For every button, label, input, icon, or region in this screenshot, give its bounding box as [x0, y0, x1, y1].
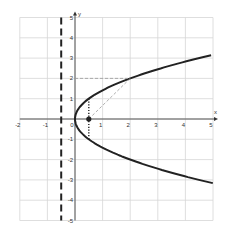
x-tick-label: -2 — [15, 122, 21, 128]
y-tick-label: -5 — [68, 218, 74, 224]
x-tick-label: 0 — [70, 122, 74, 128]
x-tick-label: -1 — [43, 122, 49, 128]
x-axis-label: x — [214, 109, 217, 115]
y-tick-label: -3 — [68, 177, 74, 183]
focus-point — [86, 116, 91, 121]
x-axis-arrow-icon — [214, 117, 218, 121]
parabola-chart: xy -2-1012345-5-4-3-2-112345 — [0, 0, 228, 234]
y-axis-arrow-icon — [73, 12, 77, 16]
axes: xy — [20, 11, 218, 221]
y-tick-label: -4 — [68, 197, 74, 203]
y-axis-label: y — [78, 11, 81, 17]
y-tick-label: -1 — [68, 136, 74, 142]
y-tick-label: -2 — [68, 157, 74, 163]
